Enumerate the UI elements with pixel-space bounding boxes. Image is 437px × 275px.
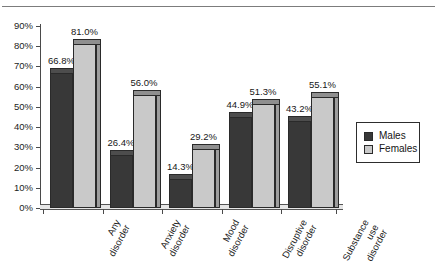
x-axis-tick	[336, 209, 337, 214]
bar-front-face	[229, 117, 252, 208]
bar-front-face	[288, 121, 311, 208]
bar-front-face	[133, 95, 156, 208]
bar-value-label: 56.0%	[126, 78, 162, 88]
y-axis-line	[40, 24, 41, 209]
bar-males	[50, 73, 73, 208]
legend-item-males: Males	[364, 131, 412, 141]
bar-front-face	[192, 149, 215, 208]
bar-males	[110, 155, 133, 208]
x-axis-category-label: Anxietydisorder	[157, 218, 192, 258]
y-axis-tick-label: 30%	[0, 142, 33, 152]
y-axis-tick-label: 10%	[0, 183, 33, 193]
legend-swatch-males-icon	[364, 132, 373, 141]
bar-value-label: 81.0%	[67, 27, 103, 37]
bar-side-face	[275, 99, 280, 208]
x-axis-tick	[103, 209, 104, 214]
x-axis-tick	[281, 209, 282, 214]
y-axis-tick-label: 40%	[0, 122, 33, 132]
chart-legend: Males Females	[356, 122, 420, 163]
chart-figure: 0%10%20%30%40%50%60%70%80%90%66.8%81.0%A…	[0, 0, 437, 275]
bar-value-label: 55.1%	[305, 80, 341, 90]
bar-side-face	[96, 39, 101, 208]
x-axis-tick	[43, 209, 44, 214]
y-axis-tick	[36, 26, 40, 27]
bar-side-face	[215, 144, 220, 208]
bar-front-face	[169, 179, 192, 208]
x-axis-tick	[222, 209, 223, 214]
y-axis-tick	[36, 66, 40, 67]
y-axis-tick-label: 20%	[0, 163, 33, 173]
bar-side-face	[156, 90, 161, 208]
legend-swatch-females-icon	[364, 145, 373, 154]
x-axis-category-label: Disruptivedisorder	[280, 218, 318, 265]
bar-males	[169, 179, 192, 208]
y-axis-tick-label: 90%	[0, 21, 33, 31]
bar-front-face	[110, 155, 133, 208]
y-axis-tick-label: 60%	[0, 82, 33, 92]
y-axis-tick	[36, 127, 40, 128]
y-axis-tick	[36, 107, 40, 108]
x-axis-category-label: Anydisorder	[97, 218, 132, 258]
bar-value-label: 29.2%	[186, 132, 222, 142]
bar-front-face	[73, 44, 96, 208]
bar-value-label: 51.3%	[245, 87, 281, 97]
y-axis-tick-label: 70%	[0, 61, 33, 71]
y-axis-tick-label: 80%	[0, 41, 33, 51]
bar-males	[229, 117, 252, 208]
y-axis-tick	[36, 147, 40, 148]
x-axis-category-label: Substanceusedisorder	[341, 218, 390, 272]
bar-front-face	[50, 73, 73, 208]
legend-label-males: Males	[379, 131, 406, 141]
bar-females	[133, 95, 156, 208]
y-axis-tick	[36, 87, 40, 88]
bar-front-face	[311, 97, 334, 208]
legend-item-females: Females	[364, 144, 412, 154]
y-axis-tick	[36, 168, 40, 169]
y-axis-tick	[36, 46, 40, 47]
y-axis-tick-label: 0%	[0, 203, 33, 213]
x-axis-tick	[162, 209, 163, 214]
y-axis-tick	[36, 188, 40, 189]
bar-side-face	[334, 92, 339, 208]
bar-females	[252, 104, 275, 208]
bar-females	[73, 44, 96, 208]
legend-label-females: Females	[379, 144, 417, 154]
bar-front-face	[252, 104, 275, 208]
x-axis-category-label: Mooddisorder	[216, 218, 251, 258]
bar-males	[288, 121, 311, 208]
bar-females	[311, 97, 334, 208]
y-axis-tick-label: 50%	[0, 102, 33, 112]
bar-females	[192, 149, 215, 208]
